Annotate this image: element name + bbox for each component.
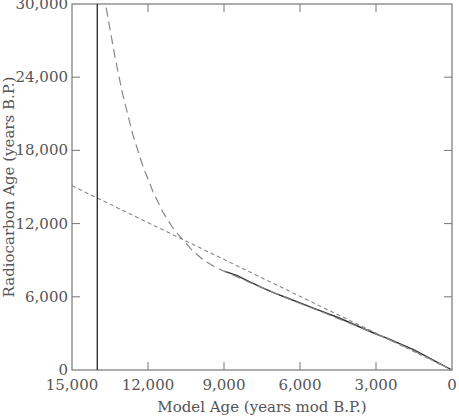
x-tick-label: 12,000 xyxy=(122,376,175,394)
y-axis-title: Radiocarbon Age (years B.P.) xyxy=(0,77,18,298)
radiocarbon-chart: 15,00012,0009,0006,0003,0000 06,00012,00… xyxy=(0,0,459,418)
y-tick-label: 24,000 xyxy=(16,68,69,86)
x-tick-label: 3,000 xyxy=(355,376,398,394)
y-tick-label: 18,000 xyxy=(16,141,69,159)
x-tick-label: 15,000 xyxy=(46,376,99,394)
x-tick-labels: 15,00012,0009,0006,0003,0000 xyxy=(46,376,457,394)
x-tick-label: 6,000 xyxy=(279,376,322,394)
series-group xyxy=(72,4,452,370)
y-tick-label: 12,000 xyxy=(16,215,69,233)
x-tick-label: 0 xyxy=(447,376,457,394)
axis-ticks xyxy=(72,4,452,370)
y-tick-label: 0 xyxy=(58,361,68,379)
series-long-dash xyxy=(106,8,452,370)
y-tick-labels: 06,00012,00018,00024,00030,000 xyxy=(16,0,69,379)
x-tick-label: 9,000 xyxy=(203,376,246,394)
y-tick-label: 30,000 xyxy=(16,0,69,13)
y-tick-label: 6,000 xyxy=(25,288,68,306)
plot-frame xyxy=(72,4,452,370)
x-axis-title: Model Age (years mod B.P.) xyxy=(157,398,366,416)
series-short-dash xyxy=(72,186,452,370)
